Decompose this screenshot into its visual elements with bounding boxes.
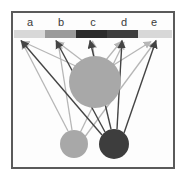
arrow-large-to-a (23, 42, 81, 69)
dark-node (99, 129, 129, 159)
light-node (60, 130, 88, 158)
large-node (69, 56, 121, 108)
arrow-large-to-d (106, 42, 121, 61)
arrow-dark-to-e (124, 41, 156, 134)
diagram-figure: a b c d e (0, 0, 187, 181)
